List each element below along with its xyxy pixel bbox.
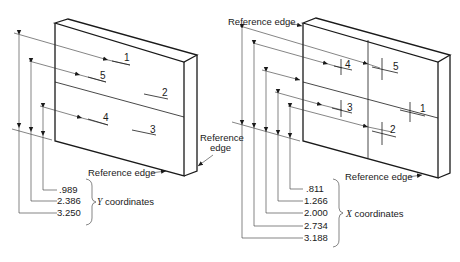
left-dimension-values: .989 2.386 3.250 <box>57 184 81 218</box>
reference-edge-top-label: Reference edge <box>228 16 296 27</box>
right-dimension-values: .811 1.266 2.000 2.734 3.188 <box>304 183 328 243</box>
left-dimension-lines <box>19 35 57 213</box>
right-hole-marks <box>332 58 425 145</box>
left-hole-labels: 1 5 2 4 3 <box>100 52 168 135</box>
right-plate <box>303 18 450 178</box>
hole-label-3: 3 <box>150 124 156 135</box>
dim-value: .989 <box>59 184 78 195</box>
hole-label-5: 5 <box>393 61 399 72</box>
left-brace <box>86 179 96 225</box>
hole-label-1: 1 <box>124 52 130 63</box>
hole-label-2: 2 <box>162 87 168 98</box>
hole-label-2: 2 <box>390 124 396 135</box>
dim-value: 3.250 <box>57 207 81 218</box>
reference-edge-side-label-2: edge <box>210 142 231 153</box>
right-brace <box>333 179 343 247</box>
reference-edge-bottom-label: Reference edge <box>345 171 413 182</box>
x-coordinates-label: X coordinates <box>345 208 404 219</box>
hole-label-1: 1 <box>420 103 426 114</box>
reference-edge-bottom-label: Reference edge <box>88 167 156 178</box>
hole-label-4: 4 <box>345 59 351 70</box>
dim-value: .811 <box>306 183 324 194</box>
dim-value: 1.266 <box>304 195 328 206</box>
left-plate <box>55 19 197 176</box>
hole-label-4: 4 <box>103 112 109 123</box>
dim-value: 3.188 <box>304 232 328 243</box>
dim-value: 2.386 <box>57 195 81 206</box>
dim-value: 2.000 <box>304 207 328 218</box>
y-coordinates-label: Y coordinates <box>97 196 154 207</box>
coordinate-diagram: 1 5 2 4 3 .989 2.386 3.250 Y coordinates… <box>0 0 460 262</box>
hole-label-3: 3 <box>347 102 353 113</box>
dim-value: 2.734 <box>304 220 328 231</box>
hole-label-5: 5 <box>100 70 106 81</box>
